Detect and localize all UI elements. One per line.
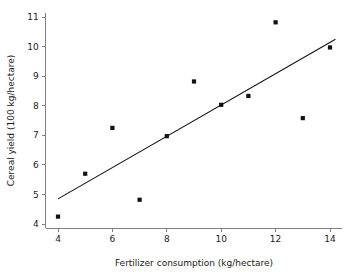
trend-line xyxy=(58,39,335,199)
data-point xyxy=(138,198,142,202)
data-point xyxy=(328,45,332,49)
y-tick-label: 4 xyxy=(33,219,39,229)
y-tick-label: 10 xyxy=(27,42,39,52)
x-axis: 468101214 xyxy=(46,228,342,244)
x-tick-label: 10 xyxy=(215,234,227,244)
y-tick-label: 11 xyxy=(27,12,38,22)
scatter-chart: 4567891011 468101214 Fertilizer consumpt… xyxy=(0,0,349,272)
x-tick-label: 14 xyxy=(324,234,336,244)
data-point xyxy=(219,103,223,107)
x-axis-title: Fertilizer consumption (kg/hectare) xyxy=(115,258,273,268)
y-axis: 4567891011 xyxy=(27,12,45,229)
y-axis-title: Cereal yield (100 kg/hectare) xyxy=(6,55,16,186)
data-point xyxy=(165,134,169,138)
data-point xyxy=(301,116,305,120)
x-tick-label: 8 xyxy=(164,234,170,244)
data-point xyxy=(83,172,87,176)
data-point xyxy=(274,20,278,24)
x-tick-label: 4 xyxy=(55,234,61,244)
data-point xyxy=(192,79,196,83)
y-tick-label: 6 xyxy=(33,160,39,170)
y-tick-label: 9 xyxy=(33,71,39,81)
data-point xyxy=(56,215,60,219)
data-points xyxy=(56,20,332,218)
data-point xyxy=(246,94,250,98)
data-point xyxy=(110,126,114,130)
y-tick-label: 5 xyxy=(33,190,39,200)
y-tick-label: 8 xyxy=(33,101,39,111)
y-tick-label: 7 xyxy=(33,130,39,140)
plot-area: 4567891011 468101214 Fertilizer consumpt… xyxy=(0,0,349,272)
x-tick-label: 12 xyxy=(270,234,281,244)
x-tick-label: 6 xyxy=(110,234,116,244)
